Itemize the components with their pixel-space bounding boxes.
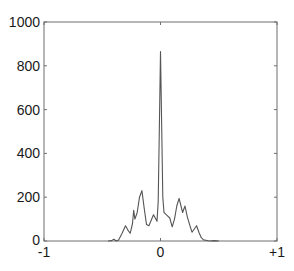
y-tick-label: 400 — [17, 145, 41, 161]
x-axis-labels: -1 0 +1 — [38, 244, 285, 260]
data-series-line — [108, 52, 219, 241]
y-tick-label: 800 — [17, 58, 41, 74]
x-tick-label: +1 — [269, 244, 285, 260]
y-tick-label: 1000 — [9, 14, 40, 30]
y-tick-label: 200 — [17, 189, 41, 205]
y-axis-labels: 1000 800 600 400 200 0 — [9, 14, 40, 248]
y-tick-label: 600 — [17, 102, 41, 118]
line-chart: 1000 800 600 400 200 0 -1 0 +1 — [0, 0, 294, 271]
x-tick-label: -1 — [38, 244, 51, 260]
x-tick-label: 0 — [157, 244, 165, 260]
